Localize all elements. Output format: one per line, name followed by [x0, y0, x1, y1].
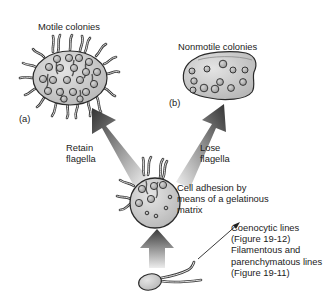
single-flagellate-icon	[137, 262, 201, 292]
panel-a-letter: (a)	[19, 113, 30, 124]
adhesion-line-1: Cell adhesion by	[177, 182, 269, 193]
adhesion-line-3: matrix	[177, 204, 269, 215]
lose-line-1: Lose	[200, 142, 230, 153]
figure-ref-19-11: (Figure 19-11)	[231, 267, 322, 278]
figure-ref-19-12: (Figure 19-12)	[231, 233, 322, 244]
motile-colonies-title: Motile colonies	[38, 21, 100, 32]
lose-line-2: flagella	[200, 153, 230, 164]
lose-flagella-label: Lose flagella	[200, 142, 230, 164]
panel-b-letter: (b)	[169, 97, 180, 108]
adhesion-line-2: means of a gelatinous	[177, 193, 269, 204]
retain-flagella-label: Retain flagella	[66, 142, 96, 164]
retain-line-2: flagella	[66, 153, 96, 164]
cell-adhesion-label: Cell adhesion by means of a gelatinous m…	[177, 182, 269, 216]
nonmotile-colonies-title: Nonmotile colonies	[178, 41, 257, 52]
nonmotile-colony-icon	[183, 52, 256, 100]
filamentous-and: Filamentous and	[231, 244, 322, 255]
other-lines-label: Coenocytic lines (Figure 19-12) Filament…	[231, 222, 322, 278]
diagram-canvas: Motile colonies (a) Nonmotile colonies (…	[0, 0, 335, 296]
arrow-up-to-aggregate	[140, 229, 174, 268]
parenchymatous-lines: parenchymatous lines	[231, 256, 322, 267]
motile-colony-icon	[20, 35, 119, 118]
coenocytic-lines: Coenocytic lines	[231, 222, 322, 233]
arrow-retain-flagella	[92, 108, 148, 186]
retain-line-1: Retain	[66, 142, 96, 153]
